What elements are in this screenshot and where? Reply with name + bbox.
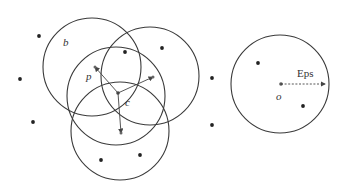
dbscan-diagram: b p c o Eps: [0, 0, 345, 193]
circle-bottom: [71, 82, 169, 180]
data-point: [256, 61, 260, 65]
label-c: c: [125, 96, 130, 108]
data-point: [301, 104, 305, 108]
label-o: o: [276, 90, 282, 102]
label-p: p: [85, 70, 92, 82]
reachability-arrow: [95, 67, 118, 93]
circle-top-right: [101, 27, 199, 125]
data-point: [99, 158, 103, 162]
data-point: [123, 50, 127, 54]
arrow-end-point: [152, 76, 155, 79]
data-point: [18, 77, 22, 81]
arrow-end-point: [94, 66, 97, 69]
data-point: [138, 153, 142, 157]
label-b: b: [63, 36, 69, 48]
data-point: [37, 34, 41, 38]
data-point: [210, 76, 214, 80]
reachability-arrows: [94, 66, 155, 135]
circle-p: [67, 47, 165, 145]
data-point: [160, 46, 164, 50]
label-eps: Eps: [297, 67, 314, 79]
eps-neighborhood-circles: [43, 18, 329, 180]
data-point: [31, 120, 35, 124]
data-point: [210, 123, 214, 127]
data-points: [18, 34, 305, 162]
arrow-end-point: [120, 132, 123, 135]
center-point-c: [116, 91, 120, 95]
